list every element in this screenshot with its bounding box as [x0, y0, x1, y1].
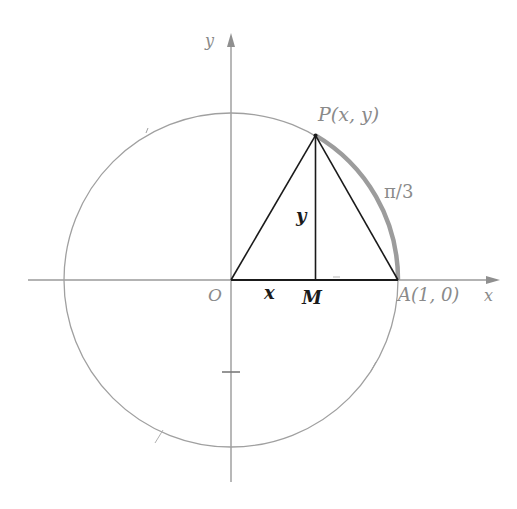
circle-tick-mark: [146, 128, 148, 133]
origin-label: O: [208, 287, 222, 304]
unit-circle-diagram: y x O P(x, y) π/3 y x M A(1, 0): [0, 0, 517, 509]
circle-tick-mark: [371, 362, 376, 371]
segment-pa: [316, 135, 399, 280]
x-axis-arrow-icon: [486, 276, 500, 284]
y-axis-label: y: [205, 33, 214, 49]
point-p-dot: [314, 133, 318, 137]
point-a-label: A(1, 0): [398, 286, 459, 304]
arc-angle-label: π/3: [384, 183, 413, 201]
segment-y-label: y: [296, 207, 306, 225]
circle-tick-mark: [155, 430, 163, 443]
point-m-label: M: [302, 289, 322, 307]
segment-x-label: x: [264, 284, 275, 302]
x-axis-label: x: [484, 288, 493, 304]
diagram-canvas: [0, 0, 517, 509]
point-p-label: P(x, y): [318, 105, 379, 124]
y-axis-arrow-icon: [227, 33, 235, 47]
